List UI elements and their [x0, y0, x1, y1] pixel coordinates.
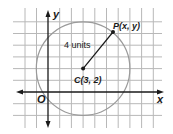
y-axis-down-arrow-icon [46, 121, 51, 128]
y-axis-label: y [52, 8, 60, 20]
radius-segment [83, 32, 113, 69]
x-axis-label: x [156, 93, 164, 105]
point-p-label: P(x, y) [113, 21, 140, 31]
center-point [81, 67, 85, 71]
x-axis-left-arrow-icon [16, 90, 23, 95]
coordinate-plane: y x O 4 units C(3, 2) P(x, y) [0, 0, 173, 134]
origin-label: O [37, 93, 46, 105]
center-label: C(3, 2) [74, 75, 102, 85]
radius-label: 4 units [64, 40, 91, 50]
y-axis-up-arrow-icon [46, 10, 51, 17]
